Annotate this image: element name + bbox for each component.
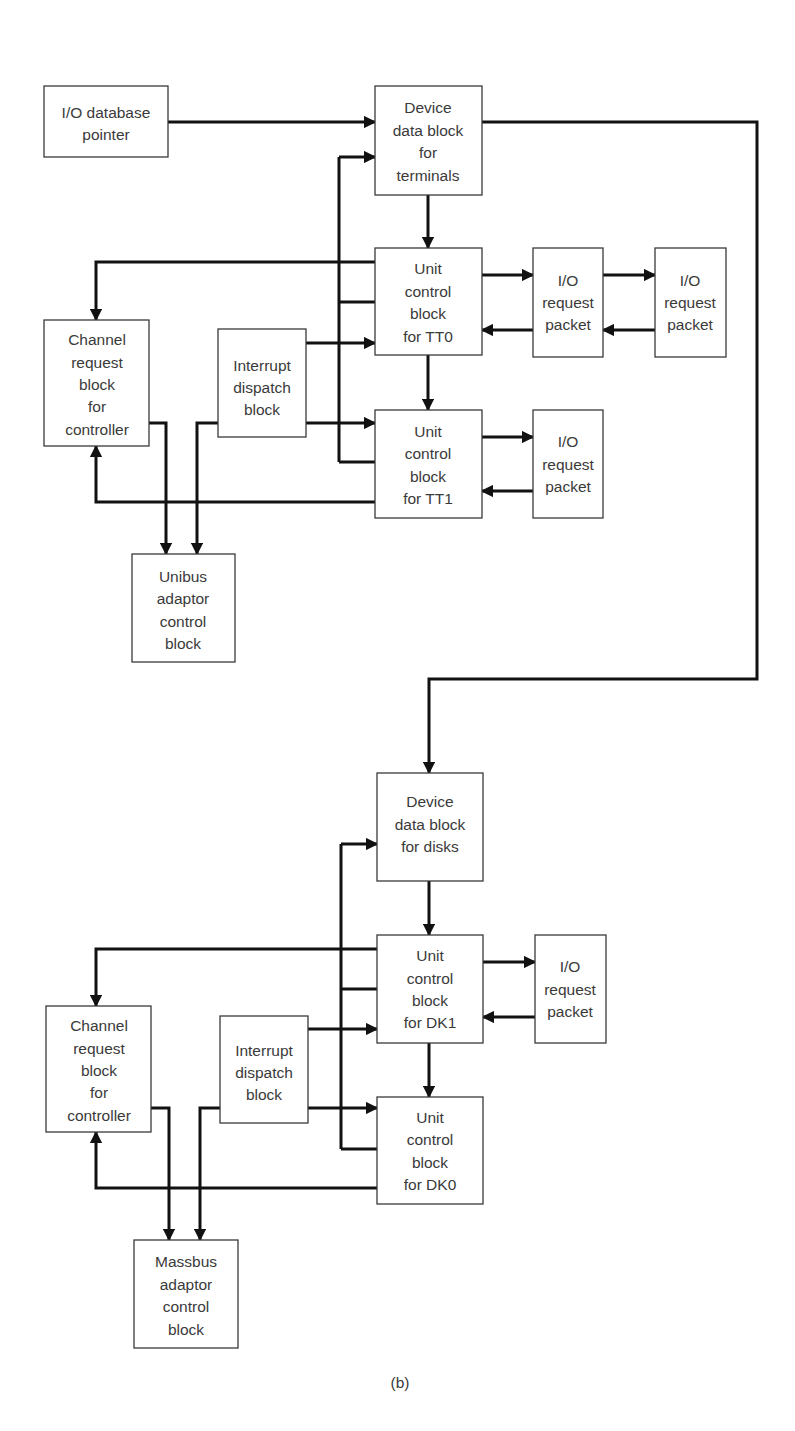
irp-dk1-box: I/O request packet [535,935,606,1043]
label: Unit [414,423,442,440]
irp-tt1-box: I/O request packet [533,410,603,518]
arrow-idb-to-massbus [200,1108,220,1240]
ucb-tt1-box: Unit control block for TT1 [375,410,482,518]
ucb-dk1-box: Unit control block for DK1 [377,935,483,1043]
label: for [419,144,437,161]
label: adaptor [157,590,210,607]
label: for [88,398,106,415]
label: for TT0 [403,328,453,345]
label: request [664,294,716,311]
label: I/O [560,958,581,975]
label: packet [545,316,591,333]
label: Interrupt [235,1042,293,1059]
label: Device [404,99,451,116]
crb-bottom-box: Channel request block for controller [46,1006,151,1132]
label: for disks [401,838,459,855]
label: Massbus [155,1253,217,1270]
label: block [244,401,280,418]
label: block [246,1086,282,1103]
label: I/O [558,272,579,289]
label: control [405,283,452,300]
label: data block [393,122,464,139]
label: block [410,305,446,322]
label: I/O database [62,104,151,121]
label: dispatch [235,1064,293,1081]
label: Channel [70,1017,128,1034]
label: I/O [558,433,579,450]
label: packet [667,316,713,333]
label: request [542,294,594,311]
arrow-crb-to-massbus [151,1108,169,1240]
label: control [163,1298,210,1315]
io-database-pointer-box: I/O database pointer [44,86,168,157]
label: Interrupt [233,357,291,374]
label: Unibus [159,568,207,585]
arrow-ucb-tt0-to-crb [96,262,375,320]
ddb-disks-box: Device data block for disks [377,773,483,881]
label: request [73,1040,125,1057]
idb-top-box: Interrupt dispatch block [218,329,306,437]
figure-caption: (b) [391,1374,410,1391]
label: control [160,613,207,630]
label: Unit [416,1109,444,1126]
massbus-adaptor-box: Massbus adaptor control block [134,1240,238,1348]
idb-bottom-box: Interrupt dispatch block [220,1016,308,1123]
arrow-idb-to-adaptor [197,423,218,554]
label: request [544,981,596,998]
label: block [412,992,448,1009]
label: block [81,1062,117,1079]
label: packet [547,1003,593,1020]
label: Unit [416,947,444,964]
label: I/O [680,272,701,289]
arrow-ucb-tt1-to-crb [96,446,375,502]
label: terminals [397,167,460,184]
label: for DK1 [404,1014,457,1031]
label: request [542,456,594,473]
label: for DK0 [404,1176,457,1193]
arrow-ucb-dk0-to-crb [96,1132,377,1188]
label: request [71,354,123,371]
label: data block [395,816,466,833]
label: for TT1 [403,490,453,507]
label: for [90,1084,108,1101]
label: Unit [414,260,442,277]
unibus-adaptor-box: Unibus adaptor control block [132,554,235,662]
label: block [168,1321,204,1338]
crb-top-box: Channel request block for controller [44,320,149,446]
ucb-dk0-box: Unit control block for DK0 [377,1097,483,1204]
label: dispatch [233,379,291,396]
label: adaptor [160,1276,213,1293]
ucb-tt0-box: Unit control block for TT0 [375,248,482,355]
label: Device [406,793,453,810]
irp-tt0-b-box: I/O request packet [655,248,726,357]
label: controller [67,1107,131,1124]
label: block [165,635,201,652]
io-database-diagram: I/O database pointer Device data block f… [0,0,795,1431]
label: pointer [82,126,129,143]
arrow-crb-to-adaptor [149,423,166,554]
label: control [405,445,452,462]
label: Channel [68,331,126,348]
arrow-ucb-dk1-to-crb [96,949,377,1006]
label: control [407,970,454,987]
irp-tt0-a-box: I/O request packet [533,248,603,357]
label: control [407,1131,454,1148]
label: block [410,468,446,485]
label: controller [65,421,129,438]
label: block [79,376,115,393]
label: block [412,1154,448,1171]
label: packet [545,478,591,495]
ddb-terminals-box: Device data block for terminals [375,86,482,195]
